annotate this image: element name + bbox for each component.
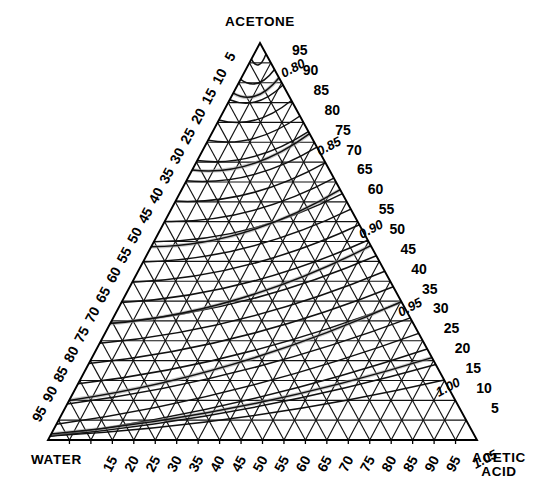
bottom-axis-tick-65: 65 xyxy=(314,453,336,474)
bottom-axis-tick-95: 95 xyxy=(442,453,464,474)
right-axis-tick-70: 70 xyxy=(346,142,362,158)
right-axis-tick-65: 65 xyxy=(357,161,373,177)
left-axis-tick-15: 15 xyxy=(198,85,220,106)
bottom-axis-tick-30: 30 xyxy=(164,453,186,474)
density-curve-halo-0.90 xyxy=(151,190,340,247)
left-axis-tick-90: 90 xyxy=(39,383,61,404)
right-axis-tick-25: 25 xyxy=(444,320,460,336)
bottom-axis-tick-75: 75 xyxy=(357,453,379,474)
density-label-0.90: 0.90 xyxy=(356,216,386,241)
right-axis-tick-80: 80 xyxy=(324,102,340,118)
grid-line-acid-55 xyxy=(241,222,358,440)
right-axis-tick-75: 75 xyxy=(335,122,351,138)
corner-label-acetone: ACETONE xyxy=(225,14,295,29)
left-axis-tick-80: 80 xyxy=(60,343,82,364)
bottom-axis-tick-20: 20 xyxy=(121,453,143,474)
right-axis-tick-55: 55 xyxy=(379,201,395,217)
left-axis-tick-70: 70 xyxy=(81,304,103,325)
right-axis-tick-40: 40 xyxy=(411,261,427,277)
bottom-axis-tick-55: 55 xyxy=(271,453,293,474)
right-axis-tick-45: 45 xyxy=(400,241,416,257)
left-axis-tick-50: 50 xyxy=(124,224,146,245)
right-axis-tick-60: 60 xyxy=(368,181,384,197)
grid-line-acid-5 xyxy=(456,420,467,440)
right-axis-tick-20: 20 xyxy=(455,340,471,356)
bottom-axis-tick-15: 15 xyxy=(99,453,121,474)
left-axis-tick-20: 20 xyxy=(187,105,209,126)
bottom-axis-tick-45: 45 xyxy=(228,453,250,474)
left-axis-tick-95: 95 xyxy=(28,403,50,424)
grid-line-water-65 xyxy=(186,182,327,440)
right-axis-tick-50: 50 xyxy=(390,221,406,237)
bottom-axis-tick-60: 60 xyxy=(292,453,314,474)
bottom-axis-tick-80: 80 xyxy=(378,453,400,474)
grid-line-acid-45 xyxy=(284,261,379,440)
grid-line-water-95 xyxy=(249,63,455,440)
corner-label-water: WATER xyxy=(31,452,82,467)
grid-line-acid-95 xyxy=(69,63,270,440)
left-axis-tick-35: 35 xyxy=(156,165,178,186)
bottom-axis-tick-40: 40 xyxy=(206,453,228,474)
left-axis-tick-25: 25 xyxy=(177,125,199,146)
ternary-diagram-root: 5101520253035404550556065707580859095959… xyxy=(0,0,554,500)
left-axis-tick-40: 40 xyxy=(145,185,167,206)
right-axis-tick-15: 15 xyxy=(465,360,481,376)
bottom-axis-tick-90: 90 xyxy=(421,453,443,474)
bottom-axis-tick-25: 25 xyxy=(142,453,164,474)
bottom-axis-tick-35: 35 xyxy=(185,453,207,474)
density-curve-0.90 xyxy=(151,190,340,247)
left-axis-tick-55: 55 xyxy=(113,244,135,265)
right-axis-tick-30: 30 xyxy=(433,300,449,316)
density-label-1.00: 1.00 xyxy=(433,374,463,399)
left-axis-tick-30: 30 xyxy=(166,145,188,166)
left-axis-tick-10: 10 xyxy=(209,66,231,87)
right-axis-tick-5: 5 xyxy=(491,400,499,416)
left-axis-tick-75: 75 xyxy=(71,324,93,345)
right-axis-tick-10: 10 xyxy=(476,380,492,396)
right-axis-tick-85: 85 xyxy=(314,82,330,98)
bottom-axis-tick-70: 70 xyxy=(335,453,357,474)
right-axis-tick-35: 35 xyxy=(422,281,438,297)
density-curve-layer xyxy=(50,54,444,436)
left-axis-tick-45: 45 xyxy=(134,204,156,225)
left-axis-tick-5: 5 xyxy=(221,49,239,64)
bottom-axis-tick-50: 50 xyxy=(249,453,271,474)
left-axis-tick-85: 85 xyxy=(50,363,72,384)
left-axis-tick-60: 60 xyxy=(103,264,125,285)
grid-line-water-55 xyxy=(165,222,284,440)
ternary-plot-svg: 5101520253035404550556065707580859095959… xyxy=(0,0,554,500)
bottom-axis-tick-85: 85 xyxy=(400,453,422,474)
left-axis-tick-65: 65 xyxy=(92,284,114,305)
